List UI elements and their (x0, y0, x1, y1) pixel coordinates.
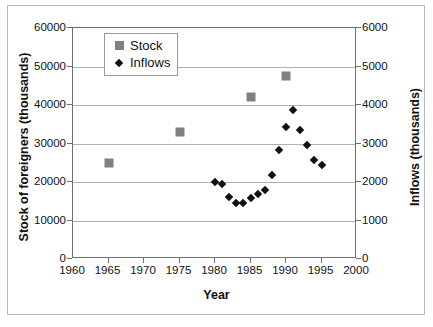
y-axis-right-tick-mark (356, 220, 361, 221)
data-point-stock (104, 158, 113, 167)
data-point-inflows (303, 141, 311, 149)
y-axis-right-tick-label: 0 (362, 252, 368, 264)
y-axis-left-tick-mark (67, 66, 72, 67)
y-axis-right-tick-label: 1000 (362, 214, 388, 226)
x-axis-tick-label: 1975 (166, 264, 192, 276)
x-axis-title: Year (0, 288, 433, 302)
chart-legend: Stock Inflows (104, 33, 178, 76)
y-axis-left-tick-label: 20000 (34, 175, 66, 187)
gridline (73, 144, 355, 145)
y-axis-right-tick-mark (356, 181, 361, 182)
legend-item-stock: Stock (110, 37, 170, 54)
x-axis-tick-mark (250, 258, 251, 263)
y-axis-right-tick-mark (356, 143, 361, 144)
legend-square-icon (110, 41, 128, 50)
data-point-inflows (289, 105, 297, 113)
y-axis-left-tick-mark (67, 220, 72, 221)
legend-diamond-icon (110, 60, 128, 66)
data-point-inflows (310, 155, 318, 163)
data-point-inflows (296, 126, 304, 134)
data-point-stock (282, 72, 291, 81)
y-axis-left-tick-label: 0 (60, 252, 66, 264)
y-axis-right-ticks: 0100020003000400050006000 (362, 0, 412, 327)
data-point-inflows (268, 171, 276, 179)
y-axis-left-tick-mark (67, 27, 72, 28)
data-point-inflows (275, 146, 283, 154)
data-point-inflows (282, 123, 290, 131)
data-point-inflows (225, 193, 233, 201)
x-axis-tick-label: 1970 (130, 264, 156, 276)
x-axis-tick-mark (214, 258, 215, 263)
data-point-inflows (218, 179, 226, 187)
x-axis-tick-label: 1995 (308, 264, 334, 276)
x-axis-tick-label: 1980 (201, 264, 227, 276)
chart-figure: 0100002000030000400005000060000 01000200… (0, 0, 433, 327)
y-axis-right-tick-mark (356, 258, 361, 259)
y-axis-right-tick-label: 5000 (362, 60, 388, 72)
y-axis-left-tick-mark (67, 104, 72, 105)
y-axis-left-tick-mark (67, 143, 72, 144)
y-axis-left-tick-mark (67, 258, 72, 259)
data-point-inflows (239, 199, 247, 207)
y-axis-right-tick-label: 6000 (362, 21, 388, 33)
legend-label-inflows: Inflows (130, 55, 170, 70)
y-axis-right-tick-mark (356, 104, 361, 105)
legend-label-stock: Stock (130, 38, 163, 53)
y-axis-right-title: Inflows (thousands) (408, 47, 422, 247)
data-point-inflows (246, 194, 254, 202)
y-axis-right-tick-label: 4000 (362, 98, 388, 110)
x-axis-tick-label: 1965 (95, 264, 121, 276)
gridline (73, 221, 355, 222)
x-axis-tick-label: 1985 (237, 264, 263, 276)
data-point-inflows (317, 161, 325, 169)
y-axis-right-tick-label: 3000 (362, 137, 388, 149)
x-axis-tick-label: 2000 (343, 264, 369, 276)
x-axis-tick-mark (285, 258, 286, 263)
y-axis-left-tick-label: 30000 (34, 137, 66, 149)
x-axis-tick-mark (321, 258, 322, 263)
data-point-stock (175, 127, 184, 136)
y-axis-left-tick-label: 10000 (34, 214, 66, 226)
y-axis-right-tick-label: 2000 (362, 175, 388, 187)
x-axis-tick-mark (108, 258, 109, 263)
y-axis-left-tick-mark (67, 181, 72, 182)
y-axis-right-tick-mark (356, 66, 361, 67)
x-axis-tick-label: 1990 (272, 264, 298, 276)
y-axis-left-tick-label: 40000 (34, 98, 66, 110)
y-axis-left-tick-label: 50000 (34, 60, 66, 72)
gridline (73, 105, 355, 106)
x-axis-tick-mark (143, 258, 144, 263)
y-axis-left-title: Stock of foreigners (thousands) (17, 47, 31, 247)
y-axis-left-tick-label: 60000 (34, 21, 66, 33)
legend-item-inflows: Inflows (110, 54, 170, 71)
x-axis-tick-mark (179, 258, 180, 263)
x-axis-tick-label: 1960 (59, 264, 85, 276)
data-point-stock (246, 93, 255, 102)
y-axis-right-tick-mark (356, 27, 361, 28)
y-axis-left-ticks: 0100002000030000400005000060000 (0, 0, 66, 327)
